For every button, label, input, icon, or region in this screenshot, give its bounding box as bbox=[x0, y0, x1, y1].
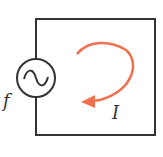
current-label: I bbox=[111, 102, 120, 123]
current-direction-arrow-icon bbox=[77, 43, 133, 108]
ac-source-icon bbox=[17, 59, 55, 97]
source-frequency-label: f bbox=[1, 90, 13, 111]
circuit-diagram: f I bbox=[0, 0, 163, 157]
